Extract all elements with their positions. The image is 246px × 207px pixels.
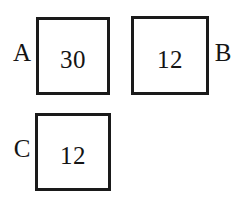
- box-label-c: C: [10, 136, 34, 161]
- box-a: 30: [36, 17, 110, 95]
- box-a-value: 30: [39, 47, 107, 72]
- box-label-a: A: [10, 40, 34, 65]
- diagram-canvas: A 30 12 B C 12: [0, 0, 246, 207]
- box-b-value: 12: [134, 47, 206, 72]
- box-c: 12: [35, 113, 111, 191]
- box-b: 12: [131, 16, 209, 95]
- box-label-b: B: [211, 40, 235, 65]
- box-c-value: 12: [38, 143, 108, 168]
